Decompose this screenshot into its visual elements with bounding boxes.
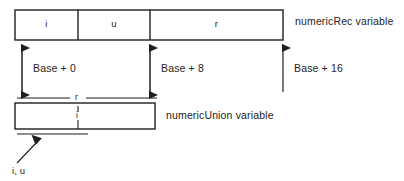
record-field-label-i: i: [15, 19, 78, 29]
union-variable-label: numericUnion variable: [166, 110, 274, 121]
union-rectangle: [15, 103, 155, 129]
memory-layout-diagram: i u r numericRec variable Base + 0 Base …: [0, 0, 404, 181]
callout-label-i-u: i, u: [12, 166, 25, 176]
union-top-bracket-label-r: r: [75, 93, 78, 102]
offset-label-base-8: Base + 8: [161, 63, 204, 74]
union-inner-label-i: i: [76, 111, 78, 120]
offset-label-base-0: Base + 0: [33, 63, 76, 74]
offset-label-base-16: Base + 16: [294, 63, 343, 74]
callout-arrow-i-u: [17, 141, 38, 163]
record-variable-label: numericRec variable: [295, 16, 394, 27]
record-field-label-r: r: [150, 19, 283, 29]
record-field-label-u: u: [78, 19, 150, 29]
